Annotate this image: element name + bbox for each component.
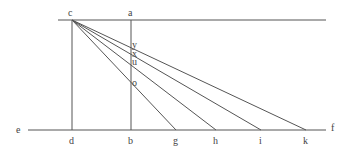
point-label-i: i: [259, 136, 262, 146]
point-label-c: c: [68, 8, 72, 18]
segment-ci: [72, 20, 261, 130]
point-label-b: b: [128, 136, 133, 146]
point-label-f: f: [331, 123, 334, 133]
point-label-o: o: [132, 78, 137, 88]
point-label-g: g: [173, 136, 178, 146]
point-label-a: a: [128, 8, 132, 18]
segment-ck: [72, 20, 306, 130]
segment-cg: [72, 20, 176, 130]
point-label-u: u: [132, 57, 137, 67]
point-label-k: k: [303, 136, 308, 146]
segment-ch: [72, 20, 216, 130]
point-label-d: d: [69, 136, 74, 146]
point-label-e: e: [16, 125, 20, 135]
point-label-h: h: [213, 136, 218, 146]
geometry-diagram: [0, 0, 354, 152]
